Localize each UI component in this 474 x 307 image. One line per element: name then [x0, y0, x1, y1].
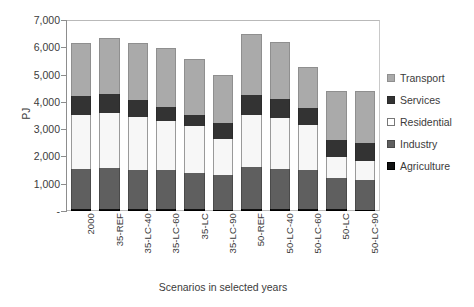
y-axis-tick-label: 2,000 — [18, 151, 60, 161]
x-axis-tick-labels: 200035-REF35-LC-4035-LC-6035-LC35-LC-905… — [67, 213, 379, 275]
bar-column — [270, 42, 290, 211]
x-axis-title: Scenarios in selected years — [66, 281, 380, 293]
bar-segment-services — [241, 95, 261, 115]
legend-item: Transport — [387, 68, 473, 87]
bar-segment-transport — [213, 75, 233, 123]
bar-segment-industry — [99, 168, 119, 209]
bar-segment-agriculture — [99, 209, 119, 211]
bar-segment-industry — [184, 173, 204, 209]
bar-segment-services — [355, 143, 375, 161]
bar-segment-transport — [128, 43, 148, 100]
bar-segment-agriculture — [71, 209, 91, 211]
y-axis-tick-labels: -1,0002,0003,0004,0005,0006,0007,000 — [18, 20, 60, 211]
bar-column — [99, 38, 119, 211]
bar-segment-services — [213, 123, 233, 139]
bar-column — [71, 43, 91, 211]
x-axis-tick-label: 35-LC-90 — [227, 213, 238, 253]
bar-segment-transport — [241, 34, 261, 95]
bar-segment-transport — [298, 67, 318, 108]
bar-series-container — [67, 20, 379, 211]
bar-segment-transport — [270, 42, 290, 99]
y-axis-tick-label: - — [18, 206, 60, 216]
bar-segment-industry — [71, 169, 91, 209]
bar-column — [213, 75, 233, 211]
legend-item: Industry — [387, 134, 473, 153]
y-axis-tick-mark — [61, 184, 66, 185]
bar-column — [355, 91, 375, 211]
bar-segment-residential — [213, 139, 233, 174]
bar-column — [326, 91, 346, 211]
agriculture-swatch — [387, 162, 395, 170]
x-axis-tick-label: 50-LC-40 — [284, 213, 295, 253]
bar-segment-services — [71, 96, 91, 115]
bar-segment-services — [128, 100, 148, 117]
bar-segment-residential — [99, 113, 119, 168]
bar-segment-residential — [184, 126, 204, 173]
y-axis-tick-mark — [61, 20, 66, 21]
x-axis-tick-label: 35-REF — [114, 213, 125, 246]
bar-segment-services — [298, 108, 318, 125]
bar-column — [298, 67, 318, 211]
y-axis-tick-mark — [61, 75, 66, 76]
industry-swatch — [387, 140, 395, 148]
bar-column — [128, 43, 148, 211]
legend-item-label: Residential — [400, 116, 452, 128]
bar-segment-services — [156, 107, 176, 122]
bar-segment-agriculture — [270, 209, 290, 211]
y-axis-tick-mark — [61, 47, 66, 48]
x-axis-tick-label: 2000 — [85, 213, 96, 235]
bar-segment-agriculture — [298, 209, 318, 211]
residential-swatch — [387, 118, 395, 126]
legend-item: Agriculture — [387, 156, 473, 175]
bar-column — [156, 48, 176, 211]
y-axis-tick-label: 5,000 — [18, 70, 60, 80]
bar-segment-industry — [156, 170, 176, 209]
legend-item: Services — [387, 90, 473, 109]
bar-segment-industry — [270, 169, 290, 209]
x-axis-tick-label: 50-LC-90 — [369, 213, 380, 253]
bar-segment-transport — [156, 48, 176, 106]
bar-segment-agriculture — [184, 209, 204, 211]
bar-segment-services — [99, 94, 119, 114]
y-axis-tick-mark — [61, 156, 66, 157]
bar-segment-agriculture — [241, 209, 261, 211]
bar-segment-transport — [326, 91, 346, 140]
x-axis-tick-label: 35-LC — [199, 213, 210, 239]
bar-segment-residential — [270, 118, 290, 169]
bar-segment-industry — [213, 175, 233, 210]
bar-segment-transport — [355, 91, 375, 144]
y-axis-tick-label: 4,000 — [18, 97, 60, 107]
bar-segment-agriculture — [213, 210, 233, 212]
bar-segment-transport — [99, 38, 119, 94]
x-axis-tick-label: 35-LC-40 — [142, 213, 153, 253]
bar-column — [241, 34, 261, 211]
bar-segment-services — [270, 99, 290, 118]
bar-segment-services — [184, 115, 204, 126]
bar-column — [184, 59, 204, 211]
y-axis-tick-mark — [61, 102, 66, 103]
y-axis-tick-label: 3,000 — [18, 124, 60, 134]
bar-segment-transport — [71, 43, 91, 96]
bar-segment-residential — [128, 117, 148, 170]
y-axis-tick-label: 6,000 — [18, 42, 60, 52]
bar-segment-agriculture — [128, 209, 148, 211]
y-axis-tick-label: 1,000 — [18, 179, 60, 189]
bar-segment-industry — [298, 170, 318, 209]
bar-segment-agriculture — [355, 210, 375, 212]
bar-segment-residential — [326, 157, 346, 178]
bar-segment-residential — [355, 161, 375, 179]
legend-item-label: Industry — [400, 138, 437, 150]
services-swatch — [387, 96, 395, 104]
transport-swatch — [387, 74, 395, 82]
bar-segment-industry — [355, 180, 375, 210]
x-axis-tick-label: 35-LC-60 — [170, 213, 181, 253]
legend-item-label: Transport — [400, 72, 445, 84]
chart-legend: TransportServicesResidentialIndustryAgri… — [387, 68, 473, 178]
bar-segment-industry — [241, 167, 261, 209]
y-axis-tick-label: 7,000 — [18, 15, 60, 25]
stacked-bar-chart: PJ -1,0002,0003,0004,0005,0006,0007,000 … — [0, 0, 474, 307]
bar-segment-transport — [184, 59, 204, 115]
bar-segment-industry — [128, 170, 148, 210]
bar-segment-services — [326, 140, 346, 157]
bar-segment-residential — [298, 125, 318, 170]
